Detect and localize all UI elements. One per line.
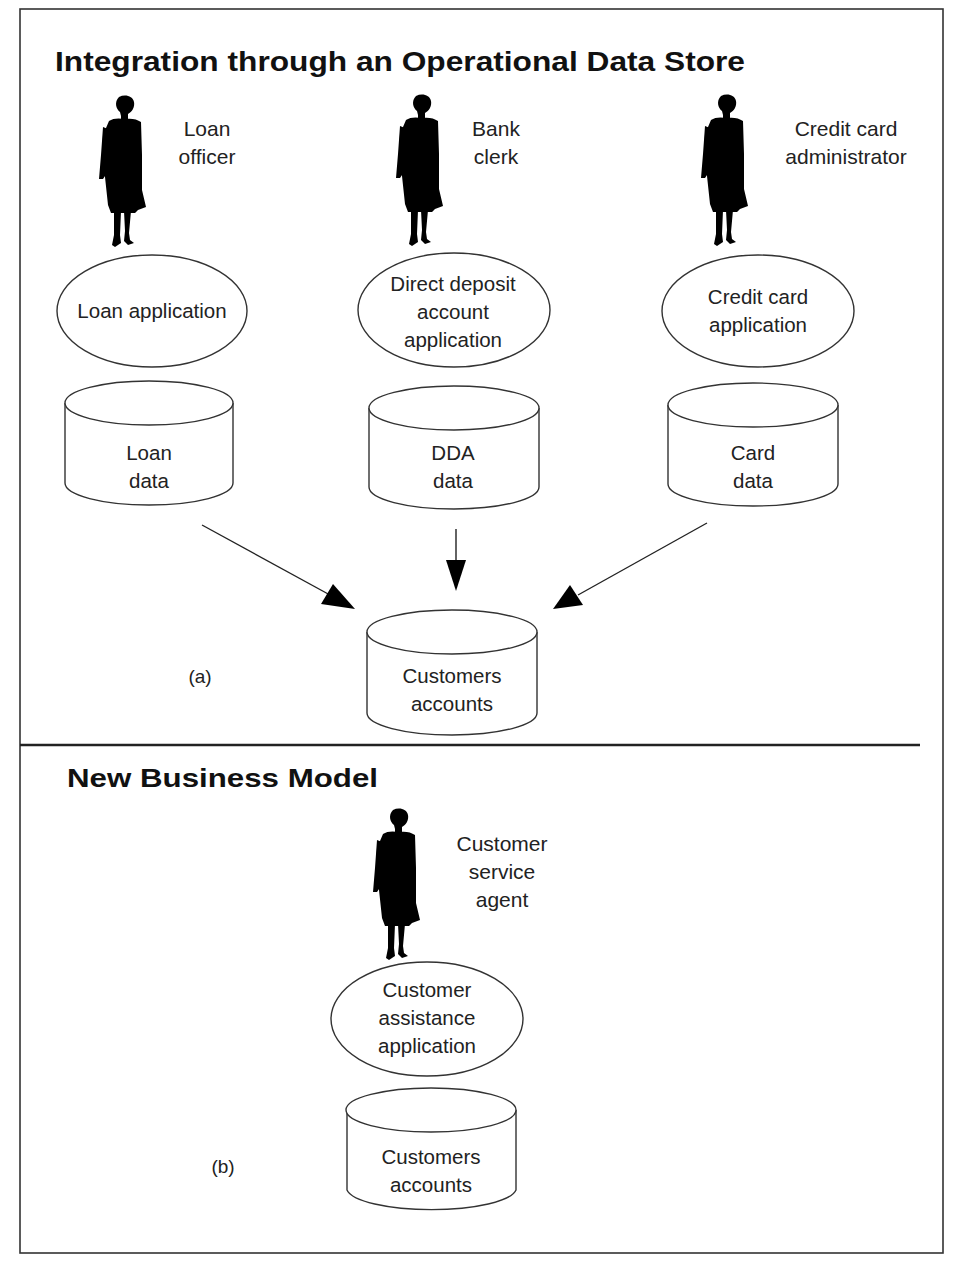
actor-name-line1: Customer	[456, 832, 547, 855]
application-label-line3: application	[404, 328, 502, 351]
arrow-loan-to-customers	[202, 525, 355, 609]
arrowhead-icon	[553, 585, 583, 609]
application-credit-card: Credit card application	[662, 255, 854, 367]
arrowhead-icon	[321, 584, 355, 609]
person-silhouette-icon	[396, 95, 443, 246]
actor-name-line2: clerk	[474, 145, 519, 168]
actor-name-line2: administrator	[785, 145, 906, 168]
actor-name-line1: Bank	[472, 117, 520, 140]
store-label-line1: Customers	[381, 1145, 480, 1168]
arrow-card-to-customers	[553, 523, 707, 609]
application-label-line2: assistance	[379, 1006, 476, 1029]
application-label-line1: Credit card	[708, 285, 808, 308]
store-label-line2: data	[129, 469, 169, 492]
actor-loan-officer: Loan officer	[99, 96, 235, 247]
data-store-card: Card data	[668, 383, 838, 506]
person-silhouette-icon	[701, 95, 748, 246]
application-loan: Loan application	[57, 255, 247, 367]
store-label-line1: DDA	[431, 441, 475, 464]
data-store-loan: Loan data	[65, 381, 233, 505]
data-store-customers-accounts-b: Customers accounts	[346, 1088, 516, 1210]
arrowhead-icon	[446, 560, 466, 591]
cylinder-top	[668, 383, 838, 427]
cylinder-top	[346, 1088, 516, 1132]
application-ellipse	[662, 255, 854, 367]
application-label-line1: Customer	[383, 978, 472, 1001]
store-label-line1: Card	[731, 441, 775, 464]
store-label-line1: Customers	[402, 664, 501, 687]
section-a-title: Integration through an Operational Data …	[55, 45, 745, 77]
actor-name-line2: officer	[179, 145, 236, 168]
actor-customer-service-agent: Customer service agent	[373, 809, 548, 960]
actor-name-line2: service	[469, 860, 536, 883]
section-b: New Business Model Customer service agen…	[67, 763, 548, 1210]
store-label-line1: Loan	[126, 441, 172, 464]
store-label-line2: data	[433, 469, 473, 492]
store-label-line2: accounts	[411, 692, 493, 715]
data-store-customers-accounts: Customers accounts	[367, 610, 537, 735]
data-store-dda: DDA data	[369, 386, 539, 509]
actor-name-line3: agent	[476, 888, 529, 911]
actor-name-line1: Loan	[184, 117, 231, 140]
arrow-dda-to-customers	[446, 529, 466, 591]
store-label-line2: accounts	[390, 1173, 472, 1196]
cylinder-top	[367, 610, 537, 654]
application-label: Loan application	[77, 299, 226, 322]
panel-label-b: (b)	[211, 1156, 234, 1177]
section-a: Integration through an Operational Data …	[55, 45, 907, 735]
section-b-title: New Business Model	[67, 763, 378, 793]
application-label-line2: account	[417, 300, 489, 323]
actor-name-line1: Credit card	[795, 117, 898, 140]
cylinder-top	[65, 381, 233, 425]
application-direct-deposit: Direct deposit account application	[358, 253, 550, 367]
application-label-line1: Direct deposit	[390, 272, 516, 295]
application-label-line3: application	[378, 1034, 476, 1057]
panel-label-a: (a)	[188, 666, 211, 687]
actor-bank-clerk: Bank clerk	[396, 95, 520, 246]
person-silhouette-icon	[99, 96, 146, 247]
application-customer-assistance: Customer assistance application	[331, 962, 523, 1076]
actor-credit-card-administrator: Credit card administrator	[701, 95, 907, 246]
store-label-line2: data	[733, 469, 773, 492]
application-label-line2: application	[709, 313, 807, 336]
cylinder-top	[369, 386, 539, 430]
person-silhouette-icon	[373, 809, 420, 960]
diagram-canvas: Integration through an Operational Data …	[0, 0, 960, 1273]
